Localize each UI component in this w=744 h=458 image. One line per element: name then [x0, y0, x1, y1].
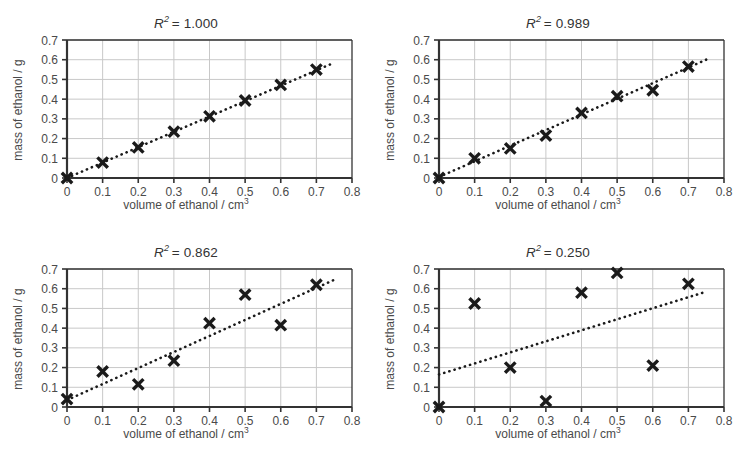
y-tick-label: 0.4 — [41, 93, 58, 107]
data-series — [434, 268, 694, 412]
y-tick-label: 0.2 — [41, 361, 58, 375]
y-tick-label: 0.1 — [41, 381, 58, 395]
y-tick-label: 0.7 — [413, 34, 430, 48]
panel-bottom-right: R2 = 0.25000.10.20.30.40.50.60.700.10.20… — [372, 229, 744, 458]
trendline — [439, 292, 706, 375]
y-tick-label: 0.4 — [41, 322, 58, 336]
y-tick-label: 0.3 — [41, 112, 58, 126]
x-axis-label-exponent: 3 — [244, 196, 249, 206]
plot-area: 00.10.20.30.40.50.60.700.10.20.30.40.50.… — [372, 0, 744, 229]
x-axis-label-exponent: 3 — [244, 425, 249, 435]
y-tick-label: 0.6 — [413, 282, 430, 296]
y-tick-label: 0.3 — [413, 341, 430, 355]
x-axis-label-exponent: 3 — [616, 425, 621, 435]
y-tick-label: 0.3 — [413, 112, 430, 126]
y-tick-label: 0 — [423, 401, 430, 415]
x-axis-label: volume of ethanol / cm3 — [372, 196, 744, 212]
x-axis-label-text: volume of ethanol / cm — [495, 198, 616, 212]
y-tick-label: 0 — [51, 401, 58, 415]
plot-area: 00.10.20.30.40.50.60.700.10.20.30.40.50.… — [372, 229, 744, 458]
y-tick-label: 0.4 — [413, 322, 430, 336]
y-tick-label: 0.5 — [413, 73, 430, 87]
y-tick-label: 0.5 — [41, 302, 58, 316]
figure-four-scatter-panels: R2 = 1.00000.10.20.30.40.50.60.700.10.20… — [0, 0, 744, 458]
x-axis-label: volume of ethanol / cm3 — [0, 196, 372, 212]
y-tick-label: 0.6 — [41, 53, 58, 67]
y-axis-label: mass of ethanol / g — [383, 264, 399, 414]
trendline — [67, 280, 334, 400]
y-tick-label: 0.5 — [413, 302, 430, 316]
y-tick-label: 0.3 — [41, 341, 58, 355]
x-axis-label-text: volume of ethanol / cm — [123, 198, 244, 212]
y-tick-label: 0.6 — [413, 53, 430, 67]
plot-area: 00.10.20.30.40.50.60.700.10.20.30.40.50.… — [0, 229, 372, 458]
x-axis-label: volume of ethanol / cm3 — [372, 425, 744, 441]
y-tick-label: 0.2 — [413, 132, 430, 146]
panel-top-left: R2 = 1.00000.10.20.30.40.50.60.700.10.20… — [0, 0, 372, 229]
panel-bottom-left: R2 = 0.86200.10.20.30.40.50.60.700.10.20… — [0, 229, 372, 458]
y-tick-label: 0.5 — [41, 73, 58, 87]
x-axis-label-text: volume of ethanol / cm — [123, 427, 244, 441]
y-tick-label: 0.7 — [41, 34, 58, 48]
y-tick-label: 0.7 — [41, 263, 58, 277]
y-tick-label: 0.1 — [41, 152, 58, 166]
trendline — [67, 63, 334, 178]
y-tick-label: 0.1 — [413, 152, 430, 166]
y-axis-label: mass of ethanol / g — [11, 264, 27, 414]
y-axis-label: mass of ethanol / g — [11, 35, 27, 185]
x-axis-label: volume of ethanol / cm3 — [0, 425, 372, 441]
x-axis-label-exponent: 3 — [616, 196, 621, 206]
y-tick-label: 0 — [423, 172, 430, 186]
y-tick-label: 0.2 — [413, 361, 430, 375]
y-tick-label: 0.2 — [41, 132, 58, 146]
y-tick-label: 0.6 — [41, 282, 58, 296]
y-tick-label: 0.1 — [413, 381, 430, 395]
x-axis-label-text: volume of ethanol / cm — [495, 427, 616, 441]
panel-top-right: R2 = 0.98900.10.20.30.40.50.60.700.10.20… — [372, 0, 744, 229]
y-axis-label: mass of ethanol / g — [383, 35, 399, 185]
y-tick-label: 0.4 — [413, 93, 430, 107]
y-tick-label: 0.7 — [413, 263, 430, 277]
y-tick-label: 0 — [51, 172, 58, 186]
plot-area: 00.10.20.30.40.50.60.700.10.20.30.40.50.… — [0, 0, 372, 229]
